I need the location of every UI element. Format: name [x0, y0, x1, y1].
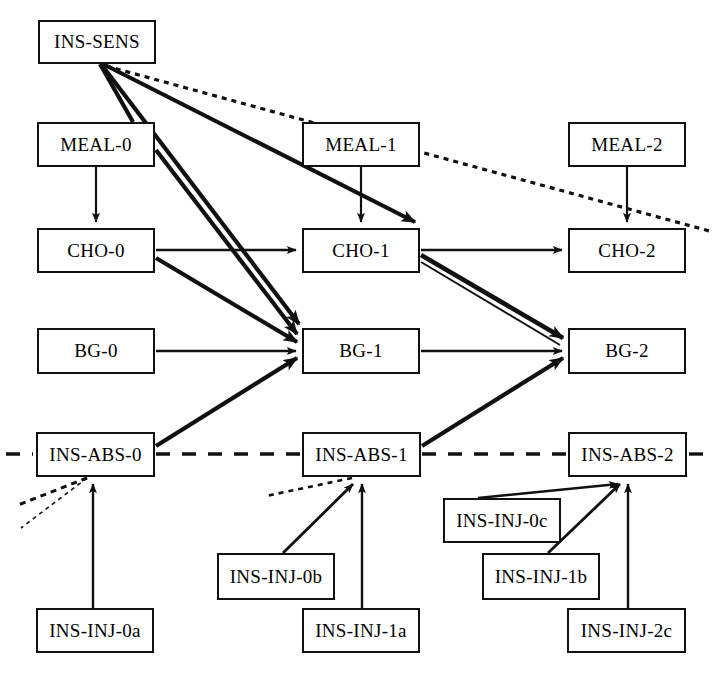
edge-ins-abs-1-to-bg-2 — [422, 358, 563, 446]
edge-ins-inj-0b-to-ins-abs-1 — [283, 484, 353, 553]
node-ins-inj-0a[interactable]: INS-INJ-0a — [36, 608, 154, 653]
edge-dotted-stub-ins-abs-0-lower — [21, 478, 87, 528]
edge-dotted-stub-ins-abs-1 — [266, 478, 352, 496]
node-ins-abs-0[interactable]: INS-ABS-0 — [36, 432, 155, 477]
node-cho-2[interactable]: CHO-2 — [568, 228, 686, 273]
node-bg-2[interactable]: BG-2 — [568, 328, 686, 374]
node-ins-inj-1b[interactable]: INS-INJ-1b — [482, 553, 600, 600]
node-bg-1[interactable]: BG-1 — [302, 328, 420, 374]
node-ins-abs-1[interactable]: INS-ABS-1 — [302, 432, 421, 477]
node-label: BG-0 — [74, 340, 117, 362]
node-label: INS-ABS-0 — [49, 444, 141, 466]
node-label: INS-ABS-1 — [315, 444, 407, 466]
edge-meal-0-to-bg-1 — [156, 150, 297, 334]
edge-dotted-stub-ins-abs-0-upper — [18, 478, 87, 505]
node-bg-0[interactable]: BG-0 — [37, 328, 155, 374]
node-label: INS-INJ-0c — [456, 510, 548, 532]
node-label: INS-INJ-0a — [49, 620, 141, 642]
node-label: INS-INJ-2c — [581, 620, 673, 642]
node-ins-inj-1a[interactable]: INS-INJ-1a — [302, 608, 420, 653]
node-label: INS-ABS-2 — [581, 444, 673, 466]
node-label: BG-2 — [605, 340, 648, 362]
node-label: INS-INJ-1a — [315, 620, 407, 642]
node-label: MEAL-0 — [60, 134, 131, 156]
edge-ins-inj-0c-to-ins-abs-2 — [478, 484, 618, 498]
node-ins-sens[interactable]: INS-SENS — [38, 20, 156, 64]
node-cho-0[interactable]: CHO-0 — [37, 228, 155, 273]
node-meal-0[interactable]: MEAL-0 — [37, 122, 155, 167]
node-meal-1[interactable]: MEAL-1 — [302, 122, 420, 167]
diagram-canvas: INS-SENSMEAL-0MEAL-1MEAL-2CHO-0CHO-1CHO-… — [0, 0, 713, 681]
edge-cho-1-to-bg-2-shadow — [421, 262, 560, 345]
node-ins-abs-2[interactable]: INS-ABS-2 — [568, 432, 687, 477]
node-label: CHO-0 — [67, 240, 124, 262]
edge-cho-1-to-bg-2 — [421, 255, 563, 338]
node-label: CHO-2 — [598, 240, 655, 262]
node-meal-2[interactable]: MEAL-2 — [568, 122, 686, 167]
node-ins-inj-0c[interactable]: INS-INJ-0c — [443, 498, 561, 543]
node-label: CHO-1 — [332, 240, 389, 262]
node-label: MEAL-1 — [325, 134, 396, 156]
node-label: INS-INJ-1b — [495, 566, 588, 588]
node-label: BG-1 — [339, 340, 382, 362]
node-ins-inj-2c[interactable]: INS-INJ-2c — [567, 608, 686, 653]
node-label: INS-INJ-0b — [230, 566, 323, 588]
edge-cho-0-to-bg-1 — [156, 258, 297, 342]
node-ins-inj-0b[interactable]: INS-INJ-0b — [217, 553, 335, 600]
node-label: MEAL-2 — [591, 134, 662, 156]
node-cho-1[interactable]: CHO-1 — [302, 228, 420, 273]
edge-ins-abs-0-to-bg-1 — [156, 358, 297, 446]
node-label: INS-SENS — [54, 31, 140, 53]
